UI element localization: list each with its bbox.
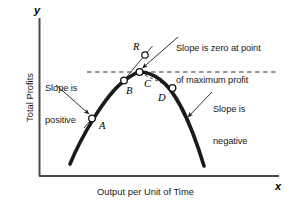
annotation-slope-positive: Slope is positive xyxy=(45,62,77,147)
point-label-c: C xyxy=(144,78,151,89)
annotation-slope-positive-line1: Slope is xyxy=(45,83,77,94)
annotation-slope-negative-line1: Slope is xyxy=(213,104,247,115)
point-label-r: R xyxy=(133,41,139,52)
annotation-slope-negative: Slope is negative xyxy=(213,83,247,168)
y-axis-name: y xyxy=(34,4,40,16)
annotation-slope-positive-line2: positive xyxy=(45,115,77,126)
point-marker-b xyxy=(121,77,128,84)
point-marker-a xyxy=(89,115,96,122)
point-marker-r xyxy=(142,52,148,58)
point-marker-c xyxy=(136,69,143,76)
x-axis-label: Output per Unit of Time xyxy=(97,186,194,197)
profit-curve-figure: y x Total Profits Output per Unit of Tim… xyxy=(0,0,291,208)
y-axis-label: Total Profits xyxy=(24,73,35,122)
point-label-d: D xyxy=(158,92,166,103)
annotation-slope-zero-line1: Slope is zero at point xyxy=(176,43,261,54)
point-marker-d xyxy=(169,85,176,92)
point-label-b: B xyxy=(126,85,132,96)
point-label-a: A xyxy=(99,120,105,131)
x-axis-name: x xyxy=(275,180,281,192)
annotation-slope-negative-line2: negative xyxy=(213,136,247,147)
